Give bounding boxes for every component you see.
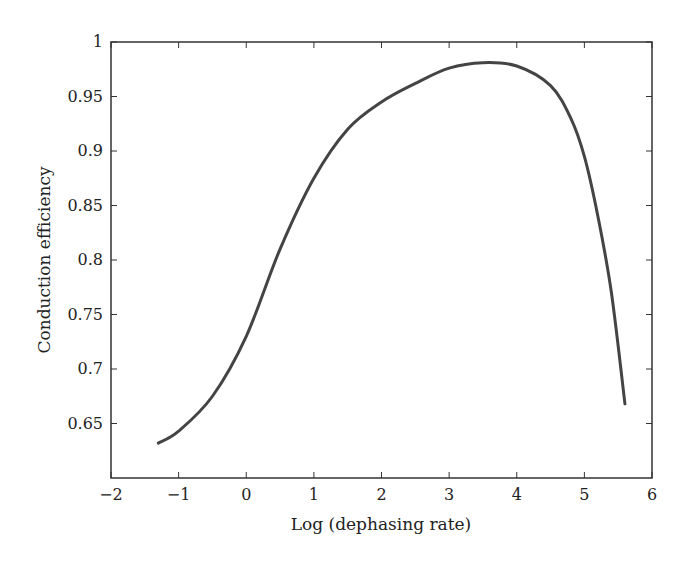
y-tick-label: 1 bbox=[93, 32, 103, 51]
x-tick-label: 3 bbox=[444, 485, 454, 504]
y-tick-label: 0.75 bbox=[67, 305, 103, 324]
x-axis-ticks: −2−10123456 bbox=[99, 42, 657, 504]
x-tick-label: 6 bbox=[647, 485, 657, 504]
y-tick-label: 0.95 bbox=[67, 87, 103, 106]
x-axis-label: Log (dephasing rate) bbox=[291, 514, 472, 534]
y-tick-label: 0.85 bbox=[67, 196, 103, 215]
x-tick-label: −2 bbox=[99, 485, 123, 504]
x-tick-label: 5 bbox=[579, 485, 589, 504]
x-tick-label: 0 bbox=[241, 485, 251, 504]
plot-frame bbox=[111, 42, 652, 478]
y-tick-label: 0.8 bbox=[78, 250, 103, 269]
x-tick-label: 1 bbox=[309, 485, 319, 504]
x-tick-label: 4 bbox=[512, 485, 522, 504]
y-axis-label: Conduction efficiency bbox=[34, 166, 54, 353]
x-tick-label: −1 bbox=[167, 485, 191, 504]
y-tick-label: 0.9 bbox=[78, 141, 103, 160]
y-axis-ticks: 0.650.70.750.80.850.90.951 bbox=[67, 32, 652, 433]
x-tick-label: 2 bbox=[376, 485, 386, 504]
y-tick-label: 0.65 bbox=[67, 414, 103, 433]
chart: −2−10123456 0.650.70.750.80.850.90.951 L… bbox=[0, 0, 691, 561]
y-tick-label: 0.7 bbox=[78, 359, 103, 378]
efficiency-curve bbox=[158, 63, 625, 444]
